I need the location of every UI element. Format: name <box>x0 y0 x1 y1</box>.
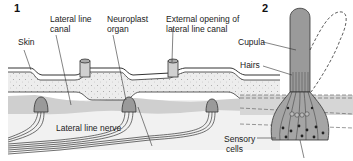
label-external-opening-2: lateral line canal <box>166 24 227 34</box>
label-lateral-line-nerve: Lateral line nerve <box>56 123 121 133</box>
panel-number-2: 2 <box>262 2 268 14</box>
label-sensory-2: cells <box>226 144 243 154</box>
label-hairs: Hairs <box>240 60 260 70</box>
label-sensory-1: Sensory <box>224 134 255 144</box>
canal-opening-2 <box>168 59 178 77</box>
label-lateral-line-canal-2: canal <box>50 24 70 34</box>
label-lateral-line-canal-1: Lateral line <box>50 14 92 24</box>
cupula-deflected <box>310 12 346 92</box>
label-skin: Skin <box>18 37 35 47</box>
label-cupula: Cupula <box>238 37 265 47</box>
label-neuroplast-1: Neuroplast <box>107 14 148 24</box>
neuromast-3 <box>206 99 218 112</box>
label-external-opening-1: External opening of <box>166 14 239 24</box>
panel-number-1: 1 <box>14 2 20 14</box>
label-neuroplast-2: organ <box>107 24 129 34</box>
canal-opening-1 <box>80 59 90 77</box>
dermis-dotted <box>8 72 280 100</box>
